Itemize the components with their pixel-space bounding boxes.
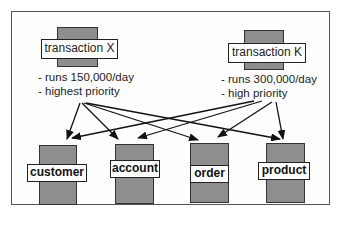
arrow-x-product xyxy=(86,103,280,139)
entity-product-label: product xyxy=(258,162,310,180)
arrow-x-customer xyxy=(67,103,80,139)
entity-order-label: order xyxy=(190,165,229,183)
arrow-k-product xyxy=(276,102,283,139)
entity-customer-label: customer xyxy=(27,164,87,182)
entity-account-label: account xyxy=(110,160,160,178)
